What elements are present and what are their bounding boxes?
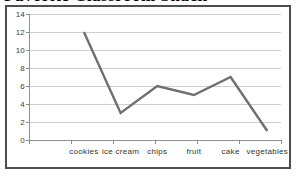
chart-frame: 02468101214 cookiesice creamchipsfruitca… [5, 5, 291, 169]
data-line-series [84, 32, 267, 131]
y-axis-tick-label: 4 [7, 100, 25, 109]
y-axis-tick-label: 14 [7, 10, 25, 19]
y-axis-tick-label: 10 [7, 46, 25, 55]
y-axis-tick-label: 8 [7, 64, 25, 73]
y-axis-tick-label: 0 [7, 136, 25, 145]
y-axis-tick-label: 2 [7, 118, 25, 127]
chart-image: Favorite Classroom Snack 02468101214 coo… [0, 0, 298, 178]
y-axis-tick-label: 6 [7, 82, 25, 91]
y-axis-tick-label: 12 [7, 28, 25, 37]
x-axis-category-label: vegetables [227, 147, 298, 157]
line-plot [7, 7, 289, 167]
